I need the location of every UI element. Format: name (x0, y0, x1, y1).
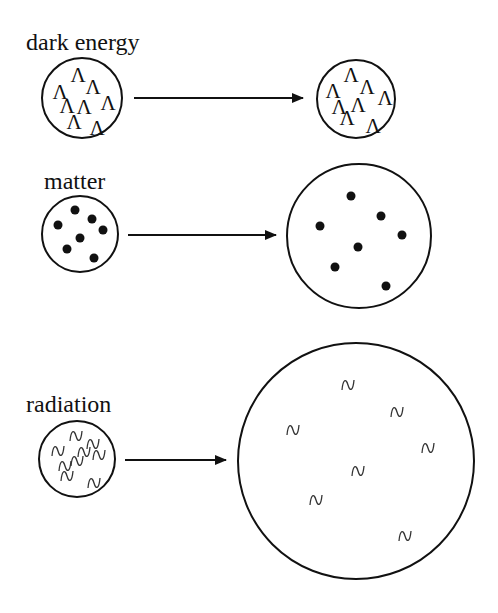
radiation-label: radiation (26, 391, 111, 417)
matter-particle (76, 234, 85, 243)
radiation-wave (310, 495, 322, 505)
radiation-wave (399, 531, 411, 541)
radiation-wave (71, 456, 83, 466)
lambda-symbol: Λ (343, 63, 359, 87)
radiation-wave (422, 443, 434, 453)
matter-particle (63, 245, 72, 254)
matter-particle (88, 215, 97, 224)
lambda-symbol: Λ (70, 63, 86, 87)
radiation-after-circle (238, 343, 474, 579)
lambda-symbol: Λ (377, 86, 393, 110)
matter-label: matter (44, 168, 105, 194)
matter-particle (99, 226, 108, 235)
dark-energy-row: dark energy ΛΛΛΛΛΛΛΛ ΛΛΛΛΛΛΛΛ (26, 29, 395, 140)
radiation-wave (342, 380, 354, 390)
radiation-wave (88, 478, 100, 488)
matter-before-dots (54, 206, 108, 263)
radiation-before-waves (52, 431, 105, 488)
matter-particle (347, 192, 356, 201)
expansion-diagram: dark energy ΛΛΛΛΛΛΛΛ ΛΛΛΛΛΛΛΛ matter rad… (0, 0, 498, 613)
radiation-wave (59, 461, 71, 471)
radiation-after-waves (287, 380, 434, 541)
matter-particle (382, 282, 391, 291)
radiation-wave (352, 466, 364, 476)
radiation-row: radiation (26, 343, 474, 579)
lambda-symbol: Λ (89, 116, 105, 140)
radiation-wave (70, 431, 82, 441)
lambda-symbol: Λ (365, 114, 381, 138)
matter-particle (71, 206, 80, 215)
dark-energy-label: dark energy (26, 29, 140, 55)
matter-after-circle (287, 164, 431, 308)
matter-particle (54, 221, 63, 230)
radiation-wave (78, 447, 90, 457)
matter-particle (398, 231, 407, 240)
radiation-wave (61, 471, 73, 481)
matter-particle (90, 254, 99, 263)
lambda-symbol: Λ (100, 91, 116, 115)
matter-row: matter (42, 164, 431, 308)
matter-particle (354, 243, 363, 252)
matter-particle (377, 212, 386, 221)
radiation-wave (87, 439, 99, 449)
radiation-wave (391, 407, 403, 417)
lambda-symbol: Λ (59, 94, 75, 118)
radiation-wave (93, 450, 105, 460)
radiation-wave (287, 425, 299, 435)
matter-particle (316, 222, 325, 231)
radiation-wave (52, 446, 64, 456)
matter-after-dots (316, 192, 407, 291)
lambda-symbol: Λ (331, 95, 347, 119)
matter-particle (331, 263, 340, 272)
